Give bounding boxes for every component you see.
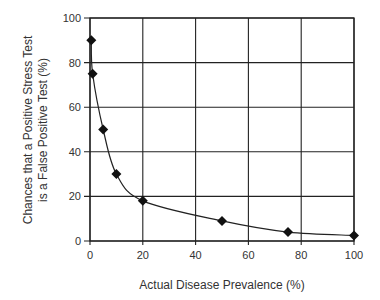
diamond-marker bbox=[349, 230, 359, 240]
data-markers bbox=[86, 35, 359, 240]
diamond-marker bbox=[88, 69, 98, 79]
diamond-marker bbox=[217, 216, 227, 226]
diamond-marker bbox=[283, 227, 293, 237]
false-positive-chart: 020406080100 020406080100 Actual Disease… bbox=[0, 0, 380, 300]
x-tick-label: 20 bbox=[137, 249, 149, 261]
diamond-marker bbox=[98, 125, 108, 135]
data-curve bbox=[91, 40, 354, 235]
x-tick-label: 100 bbox=[345, 249, 363, 261]
y-axis-ticks: 020406080100 bbox=[63, 12, 81, 247]
y-tick-label: 100 bbox=[63, 12, 81, 24]
diamond-marker bbox=[138, 196, 148, 206]
y-tick-label: 80 bbox=[69, 57, 81, 69]
diamond-marker bbox=[86, 35, 96, 45]
y-axis-title-line1: Chances that a Positive Stress Test bbox=[21, 35, 35, 224]
y-axis-title-line2: is a False Positive Test (%) bbox=[36, 58, 50, 202]
y-tick-label: 60 bbox=[69, 101, 81, 113]
grid-lines bbox=[84, 18, 354, 245]
y-tick-label: 0 bbox=[75, 235, 81, 247]
x-axis-title: Actual Disease Prevalence (%) bbox=[139, 278, 304, 292]
plot-frame bbox=[90, 18, 354, 241]
x-tick-label: 0 bbox=[87, 249, 93, 261]
y-tick-label: 20 bbox=[69, 190, 81, 202]
x-tick-label: 60 bbox=[242, 249, 254, 261]
y-tick-label: 40 bbox=[69, 146, 81, 158]
x-tick-label: 40 bbox=[189, 249, 201, 261]
diamond-marker bbox=[111, 169, 121, 179]
x-axis-ticks: 020406080100 bbox=[87, 249, 363, 261]
x-tick-label: 80 bbox=[295, 249, 307, 261]
